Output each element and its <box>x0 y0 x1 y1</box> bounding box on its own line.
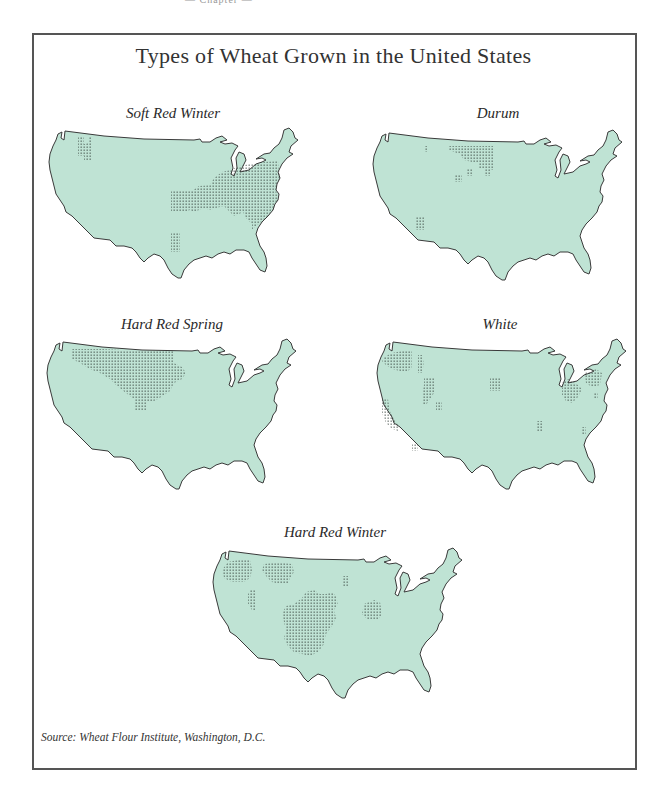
maps-canvas <box>0 0 667 805</box>
map-soft-red-winter <box>49 128 298 278</box>
map-white <box>377 339 626 489</box>
map-hard-red-winter <box>213 548 462 698</box>
us-outline <box>377 339 626 489</box>
map-durum <box>373 130 622 280</box>
us-outline <box>373 130 622 280</box>
map-hard-red-spring <box>47 339 296 489</box>
source-note: Source: Wheat Flour Institute, Washingto… <box>41 731 265 743</box>
